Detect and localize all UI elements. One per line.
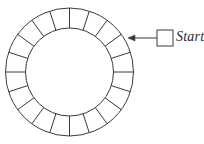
sector-divider	[111, 86, 130, 92]
sector-divider	[111, 52, 130, 58]
sector-divider	[50, 11, 56, 30]
sector-divider	[32, 20, 44, 36]
legend-square-swatch	[157, 30, 173, 46]
start-pointer-arrow	[128, 35, 157, 41]
sector-divider	[83, 11, 89, 30]
ring-diagram-svg	[0, 0, 204, 144]
sector-divider	[9, 86, 28, 92]
diagram-canvas: Start	[0, 0, 204, 144]
annulus-ring	[6, 8, 134, 136]
sector-divider	[105, 98, 121, 110]
sector-divider	[18, 34, 34, 46]
sector-divider	[18, 98, 34, 110]
sector-divider	[95, 20, 107, 36]
sector-divider	[32, 108, 44, 124]
arrow-head	[128, 35, 135, 41]
start-label: Start	[176, 28, 204, 46]
sector-divider	[9, 52, 28, 58]
sector-divider	[83, 114, 89, 133]
inner-circle	[26, 28, 114, 116]
sector-divider	[105, 34, 121, 46]
sector-divider	[95, 108, 107, 124]
sector-divider	[50, 114, 56, 133]
swatch-rect	[157, 30, 173, 46]
